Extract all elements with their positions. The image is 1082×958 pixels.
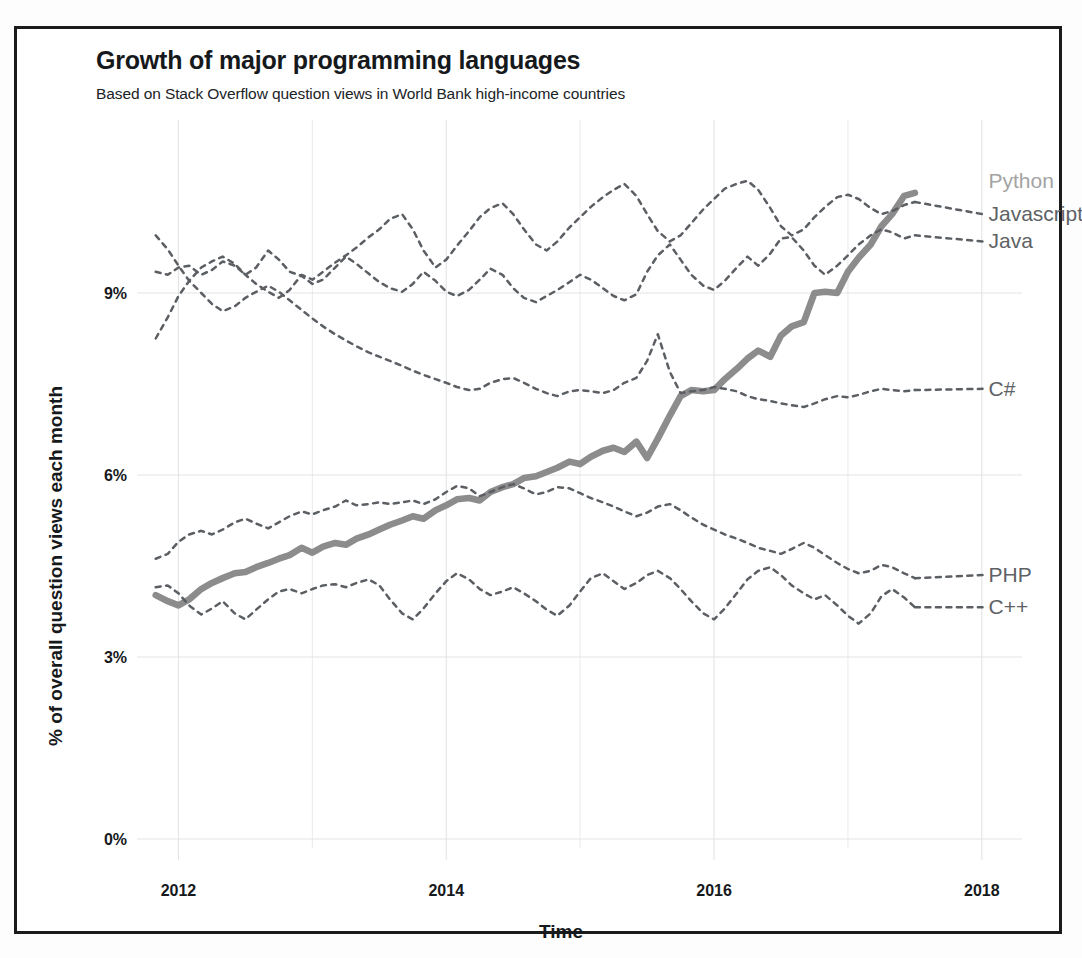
line-chart-svg: 9%6%3%0% 2012201420162018 PythonJavascri… xyxy=(0,0,1082,958)
y-axis-tick-label: 6% xyxy=(104,467,127,484)
series-label-java: Java xyxy=(989,229,1034,252)
series-label-c: C# xyxy=(989,377,1016,400)
series-leader-line xyxy=(915,389,983,390)
y-axis-tick-label: 9% xyxy=(104,285,127,302)
series-line-java xyxy=(156,229,915,302)
series-label-php: PHP xyxy=(989,563,1032,586)
series-line-javascript xyxy=(156,181,915,339)
y-axis-tick-label: 0% xyxy=(104,831,127,848)
x-axis-tick-label: 2012 xyxy=(161,882,197,899)
chart-plot-area: 9%6%3%0% 2012201420162018 PythonJavascri… xyxy=(0,0,1082,958)
series-inline-labels: PythonJavascriptJavaC#PHPC++ xyxy=(989,169,1082,618)
y-axis-tick-labels: 9%6%3%0% xyxy=(104,285,127,848)
x-axis-tick-labels: 2012201420162018 xyxy=(161,882,1000,899)
series-label-python: Python xyxy=(989,169,1054,192)
series-label-c: C++ xyxy=(989,595,1029,618)
y-axis-tick-label: 3% xyxy=(104,649,127,666)
x-axis-title: Time xyxy=(539,921,583,942)
series-line-c xyxy=(156,567,915,623)
x-axis-tick-label: 2018 xyxy=(964,882,1000,899)
gridlines-minor xyxy=(312,120,848,848)
data-series-group xyxy=(156,181,983,624)
y-axis-title: % of overall question views each month xyxy=(45,386,66,746)
series-leader-line xyxy=(915,202,983,214)
series-label-javascript: Javascript xyxy=(989,202,1082,225)
screenshot-page: Growth of major programming languages Ba… xyxy=(0,0,1082,958)
x-axis-tick-label: 2014 xyxy=(428,882,464,899)
series-leader-line xyxy=(915,235,983,241)
x-axis-tick-label: 2016 xyxy=(696,882,732,899)
series-leader-line xyxy=(915,575,983,578)
